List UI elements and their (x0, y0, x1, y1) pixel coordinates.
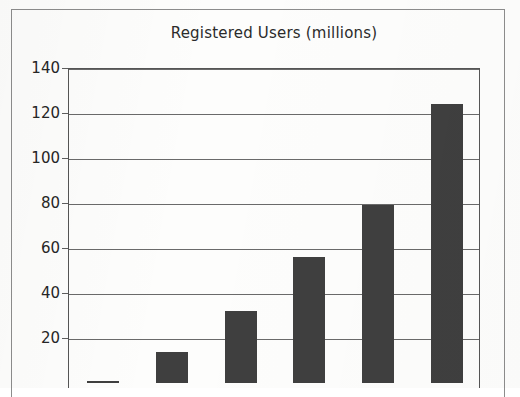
chart-title: Registered Users (millions) (68, 24, 480, 42)
y-tick-mark (62, 113, 68, 114)
y-tick-mark (62, 248, 68, 249)
y-tick-mark (62, 203, 68, 204)
y-tick-label: 80 (41, 194, 60, 212)
bar (431, 104, 463, 383)
y-tick-label: 120 (31, 104, 60, 122)
y-tick-mark (62, 293, 68, 294)
y-tick-label: 100 (31, 149, 60, 167)
bar (87, 381, 119, 383)
y-axis: 20406080100120140 (18, 68, 60, 388)
y-tick-mark (62, 68, 68, 69)
y-tick-label: 20 (41, 329, 60, 347)
y-tick-mark (62, 158, 68, 159)
y-tick-mark (62, 338, 68, 339)
y-tick-label: 140 (31, 59, 60, 77)
y-tick-label: 40 (41, 284, 60, 302)
bar (225, 311, 257, 383)
bar (293, 257, 325, 383)
bar (156, 352, 188, 384)
bars-layer (68, 68, 480, 388)
y-tick-label: 60 (41, 239, 60, 257)
bar (362, 205, 394, 383)
